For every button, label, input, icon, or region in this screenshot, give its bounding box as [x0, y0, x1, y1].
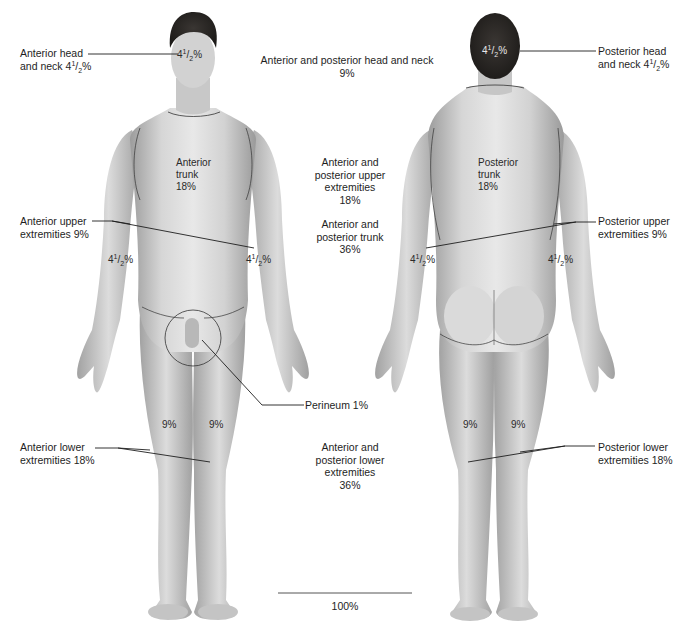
- label-posterior-lower: Posterior lower extremities 18%: [598, 441, 673, 466]
- posterior-figure: [375, 13, 615, 621]
- label-posterior-trunk: Posterior trunk 18%: [478, 157, 518, 193]
- anterior-figure: [77, 12, 309, 620]
- anterior-left-leg: [140, 310, 193, 620]
- value-posterior-head: 41/2%: [482, 45, 507, 57]
- posterior-left-leg: [439, 330, 494, 620]
- label-anterior-lower: Anterior lower extremities 18%: [20, 441, 95, 466]
- value-posterior-left-leg: 9%: [463, 419, 477, 431]
- value-posterior-right-arm: 41/2%: [548, 254, 573, 266]
- label-anterior-trunk: Anterior trunk 18%: [176, 157, 211, 193]
- anterior-torso: [130, 108, 256, 352]
- label-center-upper: Anterior and posterior upper extremities…: [300, 156, 400, 206]
- value-posterior-left-arm: 41/2%: [410, 254, 435, 266]
- label-center-trunk: Anterior and posterior trunk 36%: [300, 218, 400, 256]
- label-total: 100%: [300, 600, 390, 613]
- label-anterior-head: Anterior head and neck 41/2%: [20, 47, 91, 72]
- posterior-right-leg: [494, 330, 549, 620]
- value-anterior-head: 41/2%: [177, 49, 202, 61]
- label-perineum: Perineum 1%: [305, 399, 368, 412]
- value-posterior-right-leg: 9%: [511, 419, 525, 431]
- value-anterior-left-leg: 9%: [162, 419, 176, 431]
- body-figures: [0, 0, 689, 632]
- anterior-right-leg: [193, 310, 245, 620]
- label-posterior-head: Posterior head and neck 41/2%: [598, 45, 669, 70]
- value-anterior-right-arm: 41/2%: [246, 254, 271, 266]
- label-posterior-upper: Posterior upper extremities 9%: [598, 215, 670, 240]
- label-center-head: Anterior and posterior head and neck 9%: [258, 54, 436, 79]
- value-anterior-left-arm: 41/2%: [108, 254, 133, 266]
- value-anterior-right-leg: 9%: [209, 419, 223, 431]
- label-anterior-upper: Anterior upper extremities 9%: [20, 215, 89, 240]
- label-center-lower: Anterior and posterior lower extremities…: [300, 441, 400, 491]
